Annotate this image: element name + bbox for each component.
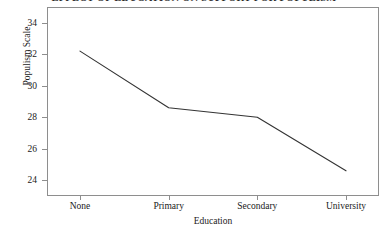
x-tick-label-primary: Primary (153, 201, 184, 211)
x-tick-label-university: University (326, 201, 366, 211)
x-tick-mark (80, 196, 81, 200)
x-tick-mark (257, 196, 258, 200)
chart-figure: EFFECT OF EDUCATION ON SUPPORT FOR POPUL… (0, 0, 388, 233)
x-tick-mark (169, 196, 170, 200)
x-axis-title: Education (47, 216, 379, 226)
x-tick-mark (346, 196, 347, 200)
x-tick-label-none: None (70, 201, 91, 211)
x-tick-label-secondary: Secondary (237, 201, 277, 211)
x-axis-ticks: NonePrimarySecondaryUniversity (0, 0, 388, 233)
